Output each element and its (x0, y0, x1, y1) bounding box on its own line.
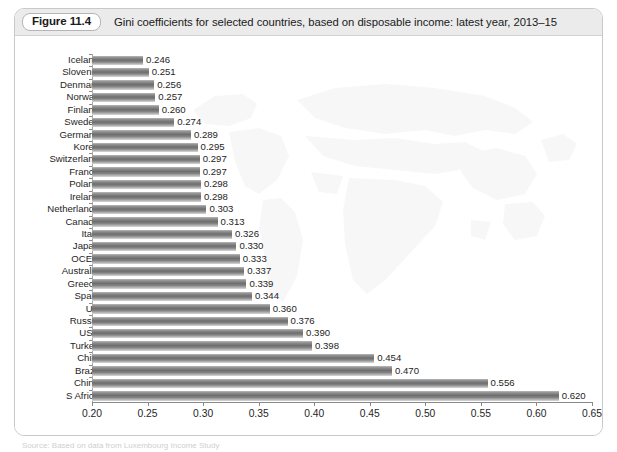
bar (92, 143, 198, 153)
category-label: Germany (14, 129, 99, 142)
x-axis-tick (536, 402, 537, 406)
bar-value-label: 0.360 (273, 303, 297, 316)
category-label: Korea (14, 141, 99, 154)
category-label: Australia (14, 265, 99, 278)
bar (92, 192, 201, 202)
bar-row: Ireland0.298 (15, 191, 602, 204)
bar-value-label: 0.339 (249, 278, 273, 291)
x-axis-tick (314, 402, 315, 406)
bar-value-label: 0.295 (201, 141, 225, 154)
bar (92, 379, 488, 389)
bar-value-label: 0.470 (395, 365, 419, 378)
bar (92, 279, 246, 289)
bar (92, 93, 155, 103)
x-axis-tick-label: 0.35 (249, 408, 269, 419)
category-label: Spain (14, 290, 99, 303)
bar (92, 155, 200, 165)
bar-row: OCED0.333 (15, 253, 602, 266)
bar (92, 317, 288, 327)
bar-value-label: 0.257 (158, 91, 182, 104)
bar-value-label: 0.256 (157, 79, 181, 92)
bar (92, 254, 240, 264)
category-label: Canada (14, 216, 99, 229)
bar (92, 267, 244, 277)
bar-value-label: 0.454 (377, 352, 401, 365)
bar-row: Poland0.298 (15, 178, 602, 191)
source-note: Source: Based on data from Luxembourg In… (22, 441, 382, 450)
bar-value-label: 0.326 (235, 228, 259, 241)
category-label: Chile (14, 352, 99, 365)
value-axis-line (92, 402, 592, 403)
bar-row: UK0.360 (15, 303, 602, 316)
x-axis-tick-label: 0.45 (360, 408, 380, 419)
bar-value-label: 0.620 (562, 390, 586, 403)
bar-row: Greece0.339 (15, 278, 602, 291)
bar-row: Germany0.289 (15, 129, 602, 142)
bar-value-label: 0.344 (255, 290, 279, 303)
bar (92, 68, 149, 78)
x-axis-tick (203, 402, 204, 406)
bar (92, 304, 270, 314)
category-label: OCED (14, 253, 99, 266)
bar-value-label: 0.330 (239, 240, 263, 253)
category-label: Japan (14, 240, 99, 253)
bar-value-label: 0.390 (306, 327, 330, 340)
bar (92, 391, 559, 401)
category-label: Ireland (14, 191, 99, 204)
bar-row: Korea0.295 (15, 141, 602, 154)
bar (92, 242, 236, 252)
category-label: France (14, 166, 99, 179)
category-label: China (14, 377, 99, 390)
bar-value-label: 0.556 (491, 377, 515, 390)
x-axis-tick-label: 0.65 (582, 408, 602, 419)
x-axis-tick-label: 0.30 (193, 408, 213, 419)
category-label: Italy (14, 228, 99, 241)
bar-row: S Africa0.620 (15, 390, 602, 403)
x-axis-tick (425, 402, 426, 406)
x-axis-tick-label: 0.20 (82, 408, 102, 419)
x-axis-tick (370, 402, 371, 406)
bar-row: Japan0.330 (15, 240, 602, 253)
bar-row: Turkey0.398 (15, 340, 602, 353)
bar-value-label: 0.298 (204, 178, 228, 191)
bar (92, 56, 143, 66)
bar-row: Switzerland0.297 (15, 153, 602, 166)
category-label: S Africa (14, 390, 99, 403)
figure-panel: Figure 11.4 Gini coefficients for select… (14, 8, 603, 436)
figure-caption: Gini coefficients for selected countries… (114, 16, 557, 28)
category-label: Switzerland (14, 153, 99, 166)
bar-row: Australia0.337 (15, 265, 602, 278)
bar (92, 180, 201, 190)
bar-row: Canada0.313 (15, 216, 602, 229)
category-label: Russia (14, 315, 99, 328)
bar-row: Denmark0.256 (15, 79, 602, 92)
x-axis-tick (148, 402, 149, 406)
bar-row: USA0.390 (15, 327, 602, 340)
bar (92, 205, 206, 215)
bar (92, 292, 252, 302)
bar-row: Slovenia0.251 (15, 66, 602, 79)
category-label: Finland (14, 104, 99, 117)
bar (92, 130, 191, 140)
bar (92, 341, 312, 351)
chart-plot-area: Iceland0.246Slovenia0.251Denmark0.256Nor… (15, 36, 602, 435)
bar-value-label: 0.246 (146, 54, 170, 67)
bar (92, 217, 218, 227)
bar-value-label: 0.303 (209, 203, 233, 216)
bar-row: Russia0.376 (15, 315, 602, 328)
bar-row: Sweden0.274 (15, 116, 602, 129)
bar (92, 118, 174, 128)
figure-header: Figure 11.4 Gini coefficients for select… (15, 9, 602, 36)
x-axis-tick-label: 0.50 (415, 408, 435, 419)
bar-row: France0.297 (15, 166, 602, 179)
bar-value-label: 0.297 (203, 166, 227, 179)
bar-value-label: 0.337 (247, 265, 271, 278)
bar-value-label: 0.298 (204, 191, 228, 204)
bar-row: Brazil0.470 (15, 365, 602, 378)
category-label: Netherlands (14, 203, 99, 216)
bar-value-label: 0.333 (243, 253, 267, 266)
bar-value-label: 0.398 (315, 340, 339, 353)
x-axis-tick (481, 402, 482, 406)
category-label: Sweden (14, 116, 99, 129)
category-label: Denmark (14, 79, 99, 92)
